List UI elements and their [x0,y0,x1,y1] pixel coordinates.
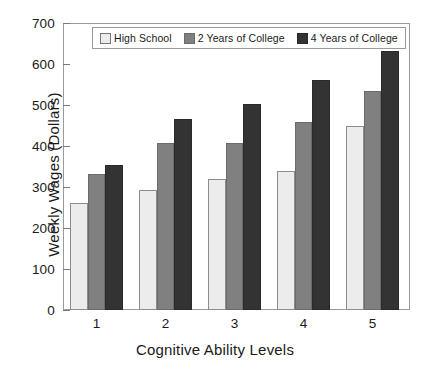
legend-item: 2 Years of College [184,32,285,44]
bar [70,203,88,310]
bar [105,165,123,310]
y-tick-label: 600 [0,57,55,72]
x-tick-label: 2 [146,316,186,331]
legend-swatch [100,33,111,44]
bar-group [139,24,192,310]
bars-layer [64,24,409,310]
bar [364,91,382,310]
y-tick-label: 100 [0,262,55,277]
y-tick-mark [63,310,70,311]
y-tick-label: 300 [0,180,55,195]
x-tick-label: 3 [215,316,255,331]
legend: High School2 Years of College4 Years of … [92,27,406,49]
y-tick-label: 0 [0,303,55,318]
legend-swatch [297,33,308,44]
bar [174,119,192,310]
bar-chart: Weekly Wages (Dollars) 01002003004005006… [0,0,430,374]
bar [226,143,244,310]
x-tick-label: 4 [284,316,324,331]
bar [208,179,226,311]
bar [88,174,106,310]
x-tick-label: 5 [353,316,393,331]
x-axis-title: Cognitive Ability Levels [0,341,430,358]
legend-label: 4 Years of College [311,32,398,44]
bar [139,190,157,310]
y-tick-label: 700 [0,16,55,31]
bar [295,122,313,311]
x-tick-label: 1 [77,316,117,331]
legend-label: High School [114,32,172,44]
bar [381,51,399,310]
bar-group [70,24,123,310]
bar [243,104,261,310]
y-tick-label: 500 [0,98,55,113]
bar-group [277,24,330,310]
legend-item: High School [100,32,172,44]
bar [346,126,364,310]
bar [277,171,295,310]
bar-group [208,24,261,310]
y-tick-label: 200 [0,221,55,236]
bar [157,143,175,310]
bar-group [346,24,399,310]
y-tick-label: 400 [0,139,55,154]
legend-label: 2 Years of College [198,32,285,44]
legend-item: 4 Years of College [297,32,398,44]
legend-swatch [184,33,195,44]
bar [312,80,330,310]
